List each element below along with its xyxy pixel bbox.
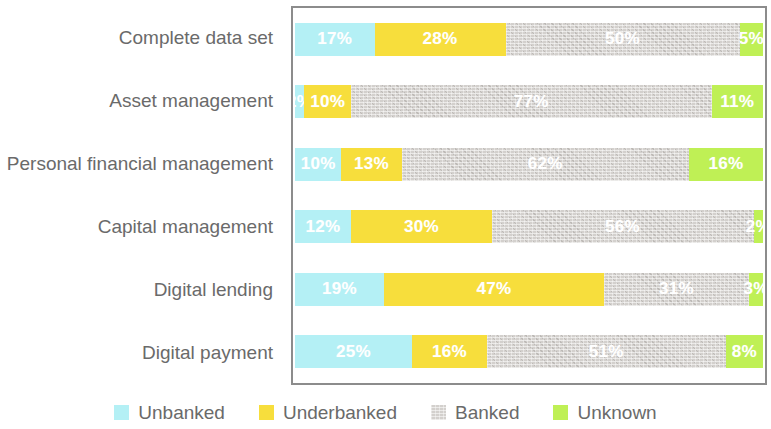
bar-segment-banked: 31% <box>604 273 749 306</box>
bar-segment-value: 8% <box>732 342 757 362</box>
bar-segment-value: 13% <box>354 154 389 174</box>
category-label: Capital management <box>0 196 283 259</box>
chart-row: 12%30%56%2% <box>293 196 765 259</box>
bar-segment-unknown: 3% <box>749 273 763 306</box>
stacked-bar: 2%10%77%11% <box>295 85 763 118</box>
bar-segment-unbanked: 25% <box>295 335 412 368</box>
bar-segment-value: 10% <box>310 92 345 112</box>
bar-segment-banked: 56% <box>492 210 754 243</box>
bar-segment-unbanked: 12% <box>295 210 351 243</box>
bar-segment-value: 5% <box>739 29 763 49</box>
category-label: Complete data set <box>0 6 283 69</box>
legend-item-underbanked[interactable]: Underbanked <box>259 402 397 424</box>
chart-row: 25%16%51%8% <box>293 321 765 384</box>
bar-segment-value: 3% <box>743 279 763 299</box>
bar-segment-banked: 77% <box>351 85 711 118</box>
bar-segment-unbanked: 17% <box>295 23 375 56</box>
bar-rows: 17%28%50%5%2%10%77%11%10%13%62%16%12%30%… <box>291 6 767 385</box>
legend-item-banked[interactable]: Banked <box>431 402 519 424</box>
legend-label: Unknown <box>577 402 656 424</box>
chart-row: 2%10%77%11% <box>293 71 765 134</box>
stacked-bar: 25%16%51%8% <box>295 335 763 368</box>
stacked-bar: 10%13%62%16% <box>295 148 763 181</box>
category-label: Digital payment <box>0 322 283 385</box>
bar-segment-underbanked: 30% <box>351 210 491 243</box>
category-label: Personal financial management <box>0 132 283 195</box>
bar-segment-unknown: 2% <box>754 210 763 243</box>
legend-swatch-icon <box>259 405 274 420</box>
bar-segment-value: 10% <box>301 154 336 174</box>
category-label: Asset management <box>0 69 283 132</box>
bar-segment-value: 50% <box>605 29 640 49</box>
stacked-bar-chart: Complete data setAsset managementPersona… <box>0 0 771 429</box>
legend-label: Underbanked <box>283 402 397 424</box>
bar-segment-unknown: 5% <box>740 23 763 56</box>
bar-segment-value: 62% <box>528 154 563 174</box>
bar-segment-banked: 50% <box>506 23 740 56</box>
category-label: Digital lending <box>0 259 283 322</box>
bar-segment-value: 16% <box>432 342 467 362</box>
bar-segment-banked: 62% <box>402 148 689 181</box>
chart-row: 17%28%50%5% <box>293 8 765 71</box>
stacked-bar: 12%30%56%2% <box>295 210 763 243</box>
bar-segment-value: 28% <box>423 29 458 49</box>
bar-segment-value: 12% <box>306 217 341 237</box>
bar-segment-value: 17% <box>317 29 352 49</box>
bar-segment-unknown: 8% <box>726 335 763 368</box>
bar-segment-value: 19% <box>322 279 357 299</box>
legend-label: Banked <box>455 402 519 424</box>
bar-segment-unknown: 16% <box>689 148 763 181</box>
bar-segment-unknown: 11% <box>712 85 763 118</box>
bar-segment-value: 56% <box>605 217 640 237</box>
bar-segment-value: 31% <box>659 279 694 299</box>
category-axis-labels: Complete data setAsset managementPersona… <box>0 6 283 385</box>
bar-segment-unbanked: 10% <box>295 148 341 181</box>
bar-segment-value: 11% <box>720 92 754 112</box>
bar-segment-underbanked: 28% <box>375 23 506 56</box>
bar-segment-unbanked: 2% <box>295 85 304 118</box>
legend-item-unbanked[interactable]: Unbanked <box>114 402 225 424</box>
legend-label: Unbanked <box>138 402 225 424</box>
bar-segment-banked: 51% <box>487 335 726 368</box>
bar-segment-value: 25% <box>336 342 371 362</box>
bar-segment-value: 2% <box>746 217 763 237</box>
bar-segment-value: 30% <box>404 217 439 237</box>
bar-segment-underbanked: 16% <box>412 335 487 368</box>
legend-swatch-icon <box>553 405 568 420</box>
bar-segment-underbanked: 10% <box>304 85 351 118</box>
bar-segment-underbanked: 47% <box>384 273 604 306</box>
chart-legend: UnbankedUnderbankedBankedUnknown <box>0 396 771 429</box>
legend-swatch-icon <box>114 405 129 420</box>
chart-row: 10%13%62%16% <box>293 133 765 196</box>
bar-segment-value: 51% <box>589 342 624 362</box>
legend-item-unknown[interactable]: Unknown <box>553 402 656 424</box>
stacked-bar: 17%28%50%5% <box>295 23 763 56</box>
bar-segment-value: 77% <box>514 92 549 112</box>
bar-segment-underbanked: 13% <box>341 148 401 181</box>
legend-swatch-icon <box>431 405 446 420</box>
chart-row: 19%47%31%3% <box>293 258 765 321</box>
stacked-bar: 19%47%31%3% <box>295 273 763 306</box>
bar-segment-value: 47% <box>476 279 511 299</box>
bar-segment-unbanked: 19% <box>295 273 384 306</box>
bar-segment-value: 16% <box>708 154 743 174</box>
